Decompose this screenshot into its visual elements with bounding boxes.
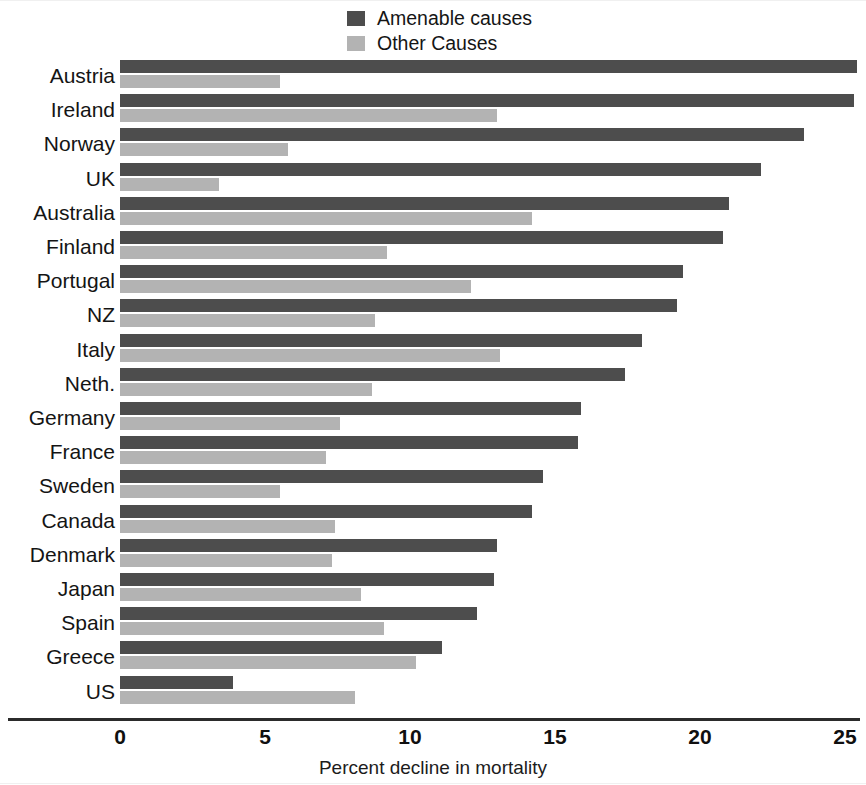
- x-tick-label: 10: [398, 726, 421, 747]
- x-tick-label: 0: [114, 726, 126, 747]
- bar-group-nz: NZ: [0, 297, 866, 331]
- bar-group-uk: UK: [0, 161, 866, 195]
- bar-amenable-causes: [120, 402, 581, 415]
- bar-group-germany: Germany: [0, 400, 866, 434]
- x-tick-label: 20: [688, 726, 711, 747]
- bar-amenable-causes: [120, 539, 497, 552]
- bar-other-causes: [120, 143, 288, 156]
- bar-group-france: France: [0, 434, 866, 468]
- bar-other-causes: [120, 520, 335, 533]
- bar-other-causes: [120, 656, 416, 669]
- bar-other-causes: [120, 314, 375, 327]
- bar-amenable-causes: [120, 470, 543, 483]
- bar-amenable-causes: [120, 607, 477, 620]
- category-label: Ireland: [51, 99, 115, 120]
- category-label: Portugal: [37, 270, 115, 291]
- bar-amenable-causes: [120, 231, 723, 244]
- legend-swatch-icon-amenable-causes: [347, 11, 365, 26]
- x-tick-label: 25: [833, 726, 856, 747]
- bar-other-causes: [120, 349, 500, 362]
- bar-group-us: US: [0, 674, 866, 708]
- bar-other-causes: [120, 212, 532, 225]
- bar-amenable-causes: [120, 163, 761, 176]
- bar-other-causes: [120, 75, 280, 88]
- scan-artifact-top: [0, 0, 866, 1]
- bar-other-causes: [120, 588, 361, 601]
- legend-label-amenable-causes: Amenable causes: [377, 9, 532, 29]
- category-label: Italy: [76, 338, 115, 359]
- bar-other-causes: [120, 485, 280, 498]
- x-axis-title: Percent decline in mortality: [0, 758, 866, 777]
- category-label: Canada: [41, 509, 115, 530]
- bar-chart: Amenable causes Other Causes AustriaIrel…: [0, 0, 866, 785]
- x-tick-label: 15: [543, 726, 566, 747]
- legend-item-amenable-causes: Amenable causes: [347, 6, 677, 31]
- bar-group-spain: Spain: [0, 605, 866, 639]
- bar-group-finland: Finland: [0, 229, 866, 263]
- bar-amenable-causes: [120, 60, 857, 73]
- bar-group-italy: Italy: [0, 332, 866, 366]
- bar-amenable-causes: [120, 676, 233, 689]
- category-label: Germany: [29, 407, 115, 428]
- plot-area: AustriaIrelandNorwayUKAustraliaFinlandPo…: [0, 58, 866, 710]
- bar-other-causes: [120, 622, 384, 635]
- bar-group-neth: Neth.: [0, 366, 866, 400]
- bar-group-sweden: Sweden: [0, 468, 866, 502]
- bar-other-causes: [120, 246, 387, 259]
- bar-group-greece: Greece: [0, 639, 866, 673]
- bar-amenable-causes: [120, 641, 442, 654]
- bar-other-causes: [120, 451, 326, 464]
- bar-other-causes: [120, 417, 340, 430]
- bar-other-causes: [120, 280, 471, 293]
- bar-amenable-causes: [120, 128, 804, 141]
- bar-other-causes: [120, 554, 332, 567]
- bar-group-portugal: Portugal: [0, 263, 866, 297]
- bar-amenable-causes: [120, 299, 677, 312]
- category-label: NZ: [87, 304, 115, 325]
- legend-item-other-causes: Other Causes: [347, 31, 677, 56]
- category-label: US: [86, 680, 115, 701]
- bar-group-austria: Austria: [0, 58, 866, 92]
- bar-group-denmark: Denmark: [0, 537, 866, 571]
- category-label: Sweden: [39, 475, 115, 496]
- bar-other-causes: [120, 691, 355, 704]
- bar-other-causes: [120, 178, 219, 191]
- bar-group-japan: Japan: [0, 571, 866, 605]
- legend-swatch-icon-other-causes: [347, 36, 365, 51]
- category-label: Spain: [61, 612, 115, 633]
- bar-amenable-causes: [120, 368, 625, 381]
- bar-group-canada: Canada: [0, 503, 866, 537]
- legend-label-other-causes: Other Causes: [377, 34, 497, 54]
- category-label: Finland: [46, 236, 115, 257]
- bar-amenable-causes: [120, 436, 578, 449]
- category-label: Austria: [50, 65, 115, 86]
- bar-other-causes: [120, 109, 497, 122]
- category-label: Australia: [33, 201, 115, 222]
- bar-amenable-causes: [120, 573, 494, 586]
- scan-artifact-bottom: [0, 783, 866, 784]
- chart-legend: Amenable causes Other Causes: [347, 6, 677, 56]
- category-label: Neth.: [65, 372, 115, 393]
- category-label: Greece: [46, 646, 115, 667]
- category-label: Denmark: [30, 543, 115, 564]
- bar-amenable-causes: [120, 94, 854, 107]
- category-label: France: [50, 441, 115, 462]
- bar-amenable-causes: [120, 505, 532, 518]
- bar-amenable-causes: [120, 334, 642, 347]
- bar-other-causes: [120, 383, 372, 396]
- bar-amenable-causes: [120, 197, 729, 210]
- bar-group-norway: Norway: [0, 126, 866, 160]
- x-axis-line: [8, 718, 860, 721]
- category-label: Japan: [58, 578, 115, 599]
- category-label: Norway: [44, 133, 115, 154]
- x-tick-label: 5: [259, 726, 271, 747]
- category-label: UK: [86, 167, 115, 188]
- bar-group-ireland: Ireland: [0, 92, 866, 126]
- bar-amenable-causes: [120, 265, 683, 278]
- bar-group-australia: Australia: [0, 195, 866, 229]
